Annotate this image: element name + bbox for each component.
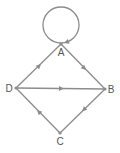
directed-graph: A B C D [0, 0, 120, 153]
edge-A-A [43, 7, 79, 45]
node-label-B: B [108, 84, 115, 95]
node-label-A: A [58, 47, 65, 58]
edge-D-A [16, 44, 61, 88]
node-A [59, 42, 62, 45]
arrowhead-D-B [59, 86, 64, 91]
edge-B-C [60, 89, 105, 133]
node-B [103, 87, 106, 90]
edge-C-D [16, 88, 60, 133]
node-D [14, 86, 17, 89]
node-C [58, 131, 61, 134]
edge-D-B [16, 86, 105, 91]
node-label-D: D [5, 83, 12, 94]
node-label-C: C [56, 136, 63, 147]
edge-A-B [61, 44, 105, 89]
